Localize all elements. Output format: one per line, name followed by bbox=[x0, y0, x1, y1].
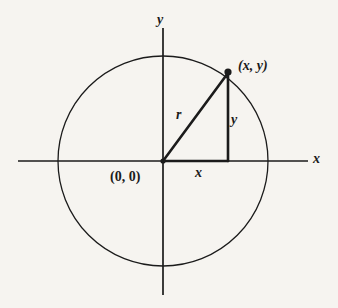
vertical-leg-label: y bbox=[231, 113, 237, 127]
point-marker-origin bbox=[160, 158, 165, 163]
horizontal-leg-label: x bbox=[195, 166, 202, 180]
x-axis-label: x bbox=[313, 152, 320, 166]
point-marker-xy bbox=[224, 68, 231, 75]
origin-label: (0, 0) bbox=[110, 170, 140, 184]
radius-label: r bbox=[176, 108, 181, 122]
point-label-xy: (x, y) bbox=[238, 59, 268, 73]
figure-canvas: y x (x, y) (0, 0) r y x bbox=[0, 0, 338, 308]
y-axis-label: y bbox=[157, 13, 163, 27]
circle-diagram-svg bbox=[0, 0, 338, 308]
radius-segment bbox=[163, 73, 228, 161]
